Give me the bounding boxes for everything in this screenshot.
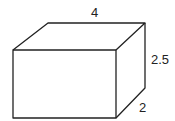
front-face	[13, 50, 116, 118]
top-face	[13, 23, 145, 50]
height-label: 2.5	[151, 53, 169, 66]
length-label: 4	[91, 6, 98, 19]
depth-label: 2	[139, 101, 146, 114]
box-diagram	[0, 0, 175, 121]
